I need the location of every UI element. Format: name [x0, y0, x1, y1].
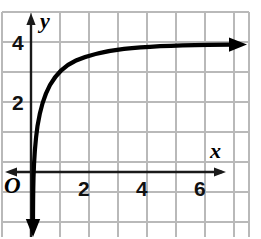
- origin-label: O: [4, 174, 21, 197]
- x-tick-label-4: 4: [136, 178, 148, 199]
- x-axis-label: x: [210, 140, 221, 162]
- plot-canvas: [0, 0, 261, 239]
- curve-right-arrow-icon: [229, 37, 247, 51]
- graph-figure: y x O 2 4 6 2 4: [0, 0, 261, 239]
- x-axis-right-arrow-icon: [214, 167, 226, 176]
- y-tick-label-2: 2: [12, 92, 24, 113]
- y-tick-label-4: 4: [12, 32, 24, 53]
- curve-bottom-arrow-icon: [26, 219, 40, 237]
- x-tick-label-6: 6: [194, 178, 206, 199]
- y-axis-label: y: [40, 10, 50, 32]
- x-tick-label-2: 2: [78, 178, 90, 199]
- x-axis: [5, 167, 226, 176]
- y-axis-up-arrow-icon: [26, 13, 35, 25]
